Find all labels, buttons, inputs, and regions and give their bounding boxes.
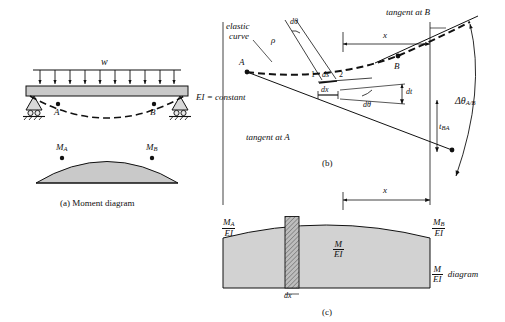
dim-x-label-c: x [383, 186, 387, 195]
tangent-a-end-marker [450, 148, 455, 153]
tangent-line-b [375, 16, 478, 63]
moment-diagram-shape [36, 162, 178, 184]
tangent-at-b-label: tangent at B [386, 8, 430, 17]
element-number-1: 1 [311, 71, 315, 79]
point-a-b-marker [245, 70, 250, 75]
point-b-b-marker [396, 54, 401, 59]
support-left [23, 96, 45, 120]
d-theta-top-label: dθ [290, 18, 298, 26]
dt-ray-upper [340, 84, 405, 90]
caption-c: (c) [322, 308, 332, 317]
point-a-marker [56, 102, 60, 106]
moment-a-marker [60, 156, 64, 160]
dt-ray-lower [340, 99, 405, 104]
delta-theta-ab-label: ΔθA/B [455, 96, 476, 107]
dx-label-c: dx [284, 292, 292, 300]
point-b-label-a: B [150, 108, 156, 117]
point-b-marker [152, 102, 156, 106]
caption-a: (a) Moment diagram [60, 199, 134, 208]
point-a-label-b: A [239, 58, 245, 67]
dim-x-label-b: x [383, 31, 387, 40]
ei-constant-label: EI = constant [196, 93, 246, 102]
elastic-curve-leader [253, 40, 272, 62]
moment-b-label: MB [146, 143, 157, 153]
dx-strip [285, 217, 299, 289]
ds-label: ds [322, 71, 329, 79]
elastic-curve-b [247, 22, 470, 75]
beam [26, 86, 188, 96]
dt-label: dt [406, 88, 412, 96]
t-ba-label: tBA [439, 122, 449, 132]
tangent-at-a-label: tangent at A [246, 133, 290, 142]
rho-label: ρ [271, 36, 275, 45]
moment-b-marker [150, 156, 154, 160]
d-theta-arc-lower [362, 90, 372, 96]
m-ei-diagram-shape [223, 225, 430, 288]
ds-segment [319, 81, 337, 83]
moment-a-label: MA [56, 143, 67, 153]
elastic-curve-label-line1: elastic [226, 22, 250, 31]
m-over-ei-center-label: M EI [333, 240, 344, 259]
figure-root [0, 0, 505, 322]
d-theta-lower-label: dθ [363, 101, 371, 109]
m-a-over-ei-label: MA EI [222, 218, 235, 238]
elastic-curve-label-line2: curve [229, 32, 249, 41]
m-over-ei-diagram-label: M EI diagram [432, 265, 478, 284]
support-right [169, 96, 191, 120]
panel-b [223, 16, 478, 205]
panel-c [223, 192, 430, 294]
caption-b: (b) [322, 159, 333, 168]
point-a-label-a: A [54, 108, 60, 117]
dx-label-b: dx [321, 86, 329, 94]
load-arrows [40, 70, 174, 84]
load-label: w [101, 57, 108, 67]
panel-a [23, 70, 191, 183]
point-b-label-b: B [394, 62, 400, 71]
element-number-2: 2 [339, 71, 343, 79]
m-b-over-ei-label: MB EI [432, 218, 445, 238]
